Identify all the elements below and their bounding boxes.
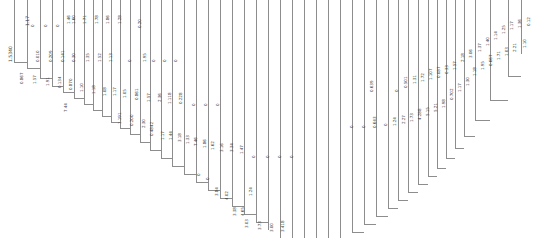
branch-height-label: 3.03 bbox=[245, 219, 250, 228]
dendrogram-merge-connector bbox=[84, 104, 93, 105]
branch-height-label: 1.10 bbox=[523, 39, 528, 48]
dendrogram-branch bbox=[376, 0, 377, 216]
branch-height-label: 0 bbox=[174, 59, 179, 62]
branch-height-label: 1.191 bbox=[118, 113, 123, 124]
dendrogram-branch bbox=[446, 0, 447, 158]
branch-height-label: 0.12 bbox=[527, 17, 532, 26]
branch-height-label: 2.30 bbox=[142, 119, 147, 128]
dendrogram-branch bbox=[364, 0, 365, 224]
dendrogram-merge-connector bbox=[408, 192, 418, 193]
branch-height-label: 0.30 bbox=[72, 53, 77, 62]
dendrogram-branch bbox=[464, 0, 465, 136]
branch-height-label: 0 bbox=[395, 89, 400, 92]
branch-height-label: 0.870 bbox=[69, 79, 74, 90]
branch-height-label: 1.57 bbox=[453, 61, 458, 70]
branch-height-label: 0 bbox=[197, 173, 202, 176]
dendrogram-merge-connector bbox=[196, 182, 208, 183]
dendrogram-merge-connector bbox=[464, 136, 475, 137]
branch-height-label: 1.08 bbox=[103, 87, 108, 96]
branch-height-label: 0 bbox=[252, 155, 257, 158]
dendrogram-branch bbox=[340, 0, 341, 238]
dendrogram-merge-connector bbox=[93, 110, 102, 111]
branch-height-label: 0 bbox=[152, 59, 157, 62]
branch-height-label: 1.52 bbox=[98, 53, 103, 62]
branch-height-label: 1.33 bbox=[186, 135, 191, 144]
dendrogram-branch bbox=[196, 0, 197, 182]
branch-height-label: 1.62 bbox=[211, 141, 216, 150]
dendrogram-merge-connector bbox=[184, 174, 196, 175]
branch-height-label: 1.86 bbox=[106, 15, 111, 24]
branch-height-label: 3.18 bbox=[178, 133, 183, 142]
branch-height-label: 1.17 bbox=[161, 131, 166, 140]
branch-height-label: 0 bbox=[216, 103, 221, 106]
branch-height-label: 0.867 bbox=[20, 73, 25, 84]
branch-height-label: 1.47 bbox=[240, 145, 245, 154]
branch-height-label: 0.501 bbox=[404, 77, 409, 88]
branch-height-label: 7.44 bbox=[64, 103, 69, 112]
branch-height-label: 0 bbox=[44, 24, 49, 27]
dendrogram-merge-connector bbox=[376, 216, 388, 217]
branch-height-label: 1.18 bbox=[92, 85, 97, 94]
dendrogram-branch bbox=[388, 0, 389, 208]
dendrogram-branch bbox=[27, 0, 28, 68]
dendrogram-figure: 1.53401.170.86700.0101.5700.2091.9100.14… bbox=[0, 0, 533, 238]
dendrogram-branch bbox=[316, 0, 317, 238]
branch-height-label: 0.639 bbox=[370, 81, 375, 92]
branch-height-label: 5.15 bbox=[426, 107, 431, 116]
branch-height-label: 1.71 bbox=[83, 15, 88, 24]
dendrogram-merge-connector bbox=[120, 128, 130, 129]
dendrogram-branch bbox=[52, 0, 53, 86]
dendrogram-merge-connector bbox=[455, 148, 464, 149]
branch-height-label: 1.24 bbox=[393, 117, 398, 126]
branch-height-label: 3.84 bbox=[215, 187, 220, 196]
branch-height-label: 1.73 bbox=[410, 113, 415, 122]
branch-height-label: 0.861 bbox=[135, 89, 140, 100]
branch-height-label: 3.38 bbox=[233, 207, 238, 216]
branch-height-label: 1.107 bbox=[429, 69, 434, 80]
branch-height-label: 1.91 bbox=[46, 77, 51, 86]
branch-height-label: 2.27 bbox=[402, 115, 407, 124]
dendrogram-branch bbox=[398, 0, 399, 200]
dendrogram-merge-connector bbox=[364, 224, 376, 225]
branch-height-label: 1.28 bbox=[118, 15, 123, 24]
branch-height-label: 1.118 bbox=[168, 93, 173, 104]
branch-height-label: 1.17 bbox=[113, 87, 118, 96]
branch-height-label: 0 bbox=[192, 103, 197, 106]
branch-height-label: 1.37 bbox=[478, 43, 483, 52]
branch-height-label: 3.418 bbox=[281, 221, 286, 232]
dendrogram-branch bbox=[184, 0, 185, 174]
branch-height-label: 0.209 bbox=[49, 51, 54, 62]
dendrogram-merge-connector bbox=[388, 208, 398, 209]
dendrogram-merge-connector bbox=[244, 214, 256, 215]
branch-height-label: 1.78 bbox=[95, 15, 100, 24]
branch-height-label: 4.02 bbox=[225, 191, 230, 200]
branch-height-label: 1.95 bbox=[481, 61, 486, 70]
branch-height-label: 3.06 bbox=[469, 49, 474, 58]
dendrogram-merge-connector bbox=[102, 116, 111, 117]
branch-height-label: 1.05 bbox=[123, 89, 128, 98]
dendrogram-merge-connector bbox=[490, 100, 508, 101]
dendrogram-branch bbox=[475, 0, 476, 120]
branch-height-label: 1.60 bbox=[72, 15, 77, 24]
branch-height-label: 0 bbox=[350, 125, 355, 128]
dendrogram-branch bbox=[14, 0, 15, 62]
dendrogram-branch bbox=[352, 0, 353, 232]
dendrogram-branch bbox=[292, 0, 293, 238]
branch-height-label: 1.5340 bbox=[9, 46, 14, 62]
dendrogram-merge-connector bbox=[161, 158, 172, 159]
branch-height-label: 3.73 bbox=[258, 221, 263, 230]
branch-height-label: 1.71 bbox=[497, 51, 502, 60]
branch-height-label: 1.57 bbox=[147, 93, 152, 102]
branch-height-label: 0 bbox=[266, 155, 271, 158]
branch-height-label: 4.65 bbox=[241, 207, 246, 216]
branch-height-label: 1.14 bbox=[494, 31, 499, 40]
branch-height-label: 0 bbox=[384, 123, 389, 126]
branch-height-label: 0.200 bbox=[130, 115, 135, 126]
branch-height-label: 1.03 bbox=[505, 47, 510, 56]
branch-height-label: 1.98 bbox=[442, 99, 447, 108]
dendrogram-branch bbox=[455, 0, 456, 148]
branch-height-label: 1.95 bbox=[143, 53, 148, 62]
dendrogram-branch bbox=[328, 0, 329, 238]
dendrogram-branch bbox=[208, 0, 209, 190]
dendrogram-merge-connector bbox=[398, 200, 408, 201]
